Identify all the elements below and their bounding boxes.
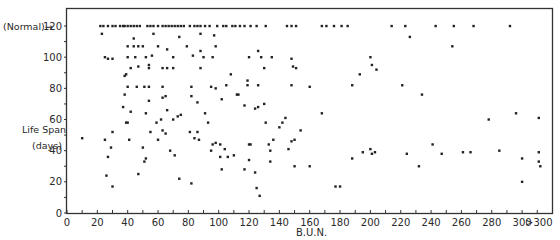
data-point	[192, 54, 194, 56]
data-point	[293, 139, 295, 141]
data-point	[214, 45, 216, 47]
x-tick-label: 140	[270, 217, 289, 228]
data-point	[128, 139, 130, 141]
data-point	[180, 114, 182, 116]
data-point	[148, 100, 150, 102]
data-points	[81, 25, 542, 197]
data-point	[160, 118, 162, 120]
data-point	[105, 174, 107, 176]
x-tick-label: >300	[525, 217, 552, 228]
data-point	[172, 118, 174, 120]
data-point	[333, 25, 335, 27]
data-point	[126, 86, 128, 88]
data-point	[180, 25, 182, 27]
data-point	[152, 25, 154, 27]
data-point	[178, 36, 180, 38]
data-point	[421, 93, 423, 95]
data-point	[440, 153, 442, 155]
data-point	[216, 25, 218, 27]
data-point	[351, 84, 353, 86]
data-point	[390, 25, 392, 27]
data-point	[359, 73, 361, 75]
data-point	[152, 33, 154, 35]
data-point	[157, 25, 159, 27]
data-point	[418, 165, 420, 167]
data-point	[170, 25, 172, 27]
data-point	[286, 25, 288, 27]
data-point	[257, 106, 259, 108]
data-point	[145, 112, 147, 114]
data-point	[362, 151, 364, 153]
data-point	[538, 117, 540, 119]
scatter-chart: 0204060801001201401601802002202402602803…	[0, 0, 560, 240]
data-point	[263, 67, 265, 69]
data-point	[230, 73, 232, 75]
data-point	[498, 149, 500, 151]
data-point	[325, 25, 327, 27]
data-point	[104, 139, 106, 141]
data-point	[149, 25, 151, 27]
normal-annotation: (Normal)→	[3, 21, 53, 32]
data-point	[136, 25, 138, 27]
data-point	[161, 86, 163, 88]
data-point	[126, 45, 128, 47]
data-point	[155, 121, 157, 123]
data-point	[166, 48, 168, 50]
data-point	[321, 25, 323, 27]
data-point	[290, 25, 292, 27]
data-point	[177, 115, 179, 117]
x-tick-label: 280	[482, 217, 501, 228]
data-point	[453, 25, 455, 27]
data-point	[214, 142, 216, 144]
data-point	[137, 65, 139, 67]
data-point	[293, 165, 295, 167]
data-point	[167, 25, 169, 27]
y-tick-label: 0	[56, 208, 62, 219]
x-axis-ticks: 0204060801001201401601802002202402602803…	[64, 210, 553, 228]
data-point	[196, 131, 198, 133]
data-point	[161, 129, 163, 131]
data-point	[339, 185, 341, 187]
data-point	[243, 168, 245, 170]
data-point	[161, 67, 163, 69]
data-point	[243, 25, 245, 27]
data-point	[231, 25, 233, 27]
data-point	[509, 25, 511, 27]
data-point	[111, 131, 113, 133]
data-point	[290, 84, 292, 86]
data-point	[111, 58, 113, 60]
data-point	[111, 185, 113, 187]
data-point	[263, 103, 265, 105]
data-point	[295, 67, 297, 69]
data-point	[186, 45, 188, 47]
data-point	[521, 157, 523, 159]
data-point	[265, 121, 267, 123]
x-tick-label: 240	[422, 217, 441, 228]
data-point	[130, 67, 132, 69]
data-point	[157, 45, 159, 47]
data-point	[149, 131, 151, 133]
data-point	[271, 56, 273, 58]
data-point	[371, 153, 373, 155]
data-point	[309, 165, 311, 167]
x-tick-label: 20	[91, 217, 104, 228]
data-point	[193, 137, 195, 139]
data-point	[255, 25, 257, 27]
data-point	[472, 25, 474, 27]
data-point	[239, 25, 241, 27]
plot-frame	[67, 9, 553, 214]
data-point	[196, 25, 198, 27]
x-axis-label: B.U.N.	[296, 227, 327, 238]
data-point	[539, 165, 541, 167]
data-point	[369, 148, 371, 150]
data-point	[374, 151, 376, 153]
data-point	[157, 139, 159, 141]
data-point	[110, 146, 112, 148]
x-tick-label: 180	[331, 217, 350, 228]
data-point	[126, 56, 128, 58]
data-point	[99, 25, 101, 27]
data-point	[164, 132, 166, 134]
data-point	[214, 87, 216, 89]
data-point	[234, 25, 236, 27]
data-point	[309, 86, 311, 88]
